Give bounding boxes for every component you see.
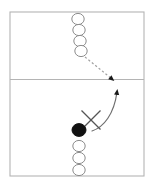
active-player-filled [72, 124, 86, 137]
bottom-queue-player-3 [73, 164, 85, 175]
top-queue-player-3 [74, 35, 86, 46]
court-diagram-container [0, 0, 154, 187]
bottom-queue-player-2 [73, 152, 85, 163]
bottom-queue-group [73, 140, 85, 175]
bottom-queue-player-1 [73, 140, 85, 151]
top-queue-player-1 [72, 13, 84, 24]
court-diagram-svg [0, 0, 154, 187]
top-queue-player-2 [73, 24, 85, 35]
top-queue-player-4 [75, 45, 87, 56]
